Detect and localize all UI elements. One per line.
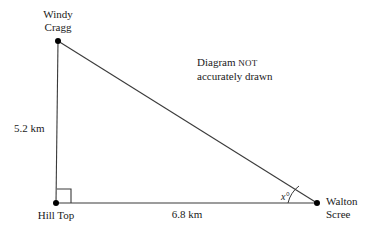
angle-label-unknown: x°	[281, 190, 289, 203]
side-label-vertical-distance: 5.2 km	[14, 122, 45, 135]
vertex-label-windy-cragg: WindyCragg	[43, 8, 73, 34]
vertex-dot-hill-top	[53, 200, 59, 206]
vertex-label-hill-top-line1: Hill Top	[38, 209, 75, 221]
triangle-diagram	[0, 0, 379, 236]
diagram-accuracy-note: Diagram NOTaccurately drawn	[197, 56, 272, 83]
vertex-label-walton-scree-line2: Scree	[326, 208, 350, 220]
vertex-label-hill-top: Hill Top	[38, 209, 75, 222]
vertex-dot-walton-scree	[314, 200, 320, 206]
side-label-horizontal-distance: 6.8 km	[172, 208, 203, 221]
right-angle-marker	[57, 189, 71, 203]
diagram-accuracy-note-prefix: Diagram	[197, 56, 238, 68]
vertex-dot-windy-cragg	[55, 38, 61, 44]
vertical-side-line	[56, 41, 58, 203]
hypotenuse-line	[58, 41, 317, 203]
vertex-label-walton-scree-line1: Walton	[326, 195, 358, 207]
diagram-accuracy-note-emphasis: NOT	[238, 58, 257, 68]
vertex-label-walton-scree: WaltonScree	[326, 195, 358, 221]
vertex-label-windy-cragg-line1: Windy	[43, 8, 73, 20]
vertex-label-windy-cragg-line2: Cragg	[45, 21, 72, 33]
diagram-accuracy-note-line2: accurately drawn	[197, 70, 272, 82]
